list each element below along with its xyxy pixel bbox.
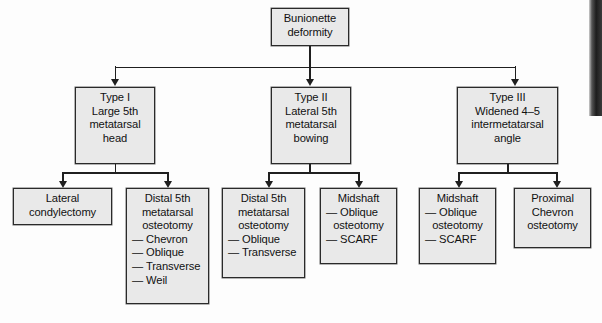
node-line: Distal 5th [227,192,300,206]
node-line: osteotomy [131,219,204,233]
node-distal-5th-metatarsal-osteotomy-type1: Distal 5th metatarsal osteotomy — Chevro… [126,188,209,304]
arrowhead-type-3 [511,79,519,86]
node-type-3: Type III Widened 4–5 intermetatarsal ang… [457,87,558,164]
arrowhead-lateral-condylectomy [59,181,67,188]
node-type-1: Type I Large 5th metatarsal head [75,87,155,164]
connector-root-stem [309,46,311,68]
node-line: metatarsal [80,118,150,132]
node-line: Type II [276,91,346,105]
arrowhead-proximal-chevron [553,181,561,188]
node-list-item: — Oblique [325,206,392,220]
node-line: osteotomy [227,219,300,233]
node-line: metatarsal [227,206,300,220]
node-list-item: — Oblique [227,233,300,247]
node-line: bowing [276,132,346,146]
node-line: Distal 5th [131,192,204,206]
node-line: metatarsal [276,118,346,132]
node-list-item: — Oblique [424,206,491,220]
node-line: deformity [276,26,344,40]
node-line: Midshaft [325,192,392,206]
connector-to-type-3 [515,66,517,80]
connector-type-1-bus [62,172,168,174]
connector-to-type-2 [309,66,311,80]
node-line: Midshaft [424,192,491,206]
node-midshaft-osteotomy-type2: Midshaft — Oblique osteotomy — SCARF [320,188,397,264]
connector-type-2-bus [268,172,359,174]
node-line: Proximal [519,192,586,206]
node-line: Bunionette [276,12,344,26]
node-line: Chevron [519,206,586,220]
arrowhead-midshaft-b [455,181,463,188]
node-line: Type I [80,91,150,105]
node-line: condylectomy [18,206,107,220]
node-line: metatarsal [131,206,204,220]
node-line: head [80,132,150,146]
flowchart-canvas: Bunionette deformity Type I Large 5th me… [0,0,602,323]
node-list-item: — Chevron [131,233,204,247]
node-line: angle [462,132,553,146]
node-line: Large 5th [80,105,150,119]
node-line: Lateral [18,192,107,206]
node-line: osteotomy [325,219,392,233]
node-lateral-condylectomy: Lateral condylectomy [13,188,112,225]
arrowhead-type-1 [111,79,119,86]
node-list-item: — SCARF [424,233,491,247]
arrowhead-type-2 [306,79,314,86]
node-distal-5th-metatarsal-osteotomy-type2: Distal 5th metatarsal osteotomy — Obliqu… [222,188,305,278]
node-line: Type III [462,91,553,105]
node-line: intermetatarsal [462,118,553,132]
node-proximal-chevron-osteotomy: Proximal Chevron osteotomy [514,188,591,248]
node-line: osteotomy [519,219,586,233]
connector-type-3-bus [458,172,557,174]
arrowhead-distal-osteotomy-b [265,181,273,188]
node-list-item: — Transverse [131,260,204,274]
node-line: osteotomy [424,219,491,233]
connector-to-type-1 [115,66,117,80]
node-list-item: — SCARF [325,233,392,247]
node-list-item: — Oblique [131,246,204,260]
node-type-2: Type II Lateral 5th metatarsal bowing [271,87,351,164]
node-list-item: — Weil [131,274,204,288]
node-line: Widened 4–5 [462,105,553,119]
page-edge-artifact [589,0,602,116]
arrowhead-distal-osteotomy-a [164,181,172,188]
node-line: Lateral 5th [276,105,346,119]
node-bunionette-deformity: Bunionette deformity [271,8,349,46]
node-midshaft-osteotomy-type3: Midshaft — Oblique osteotomy — SCARF [419,188,496,264]
arrowhead-midshaft-a [355,181,363,188]
node-list-item: — Transverse [227,246,300,260]
connector-top-bus [115,67,515,69]
